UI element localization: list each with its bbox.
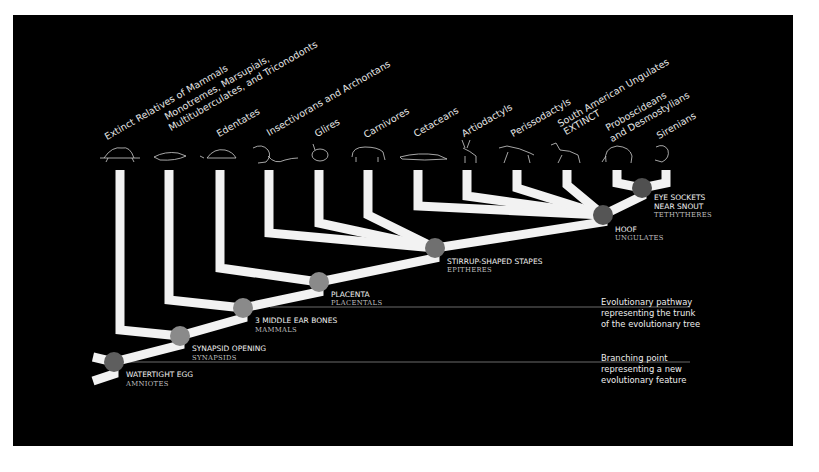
clade-label-tethytheres: TETHYTHERES <box>654 211 712 220</box>
feature-label-near-snout: NEAR SNOUT <box>654 202 703 211</box>
feature-label-3-middle-ear-bones: 3 MIDDLE EAR BONES <box>255 316 337 325</box>
monkey-icon <box>253 146 298 163</box>
animal-icons <box>100 140 668 163</box>
legend-branching-line2: representing a new <box>601 364 682 375</box>
node-amniotes <box>104 352 124 372</box>
bear-icon <box>352 147 385 162</box>
clade-label-amniotes: AMNIOTES <box>126 380 169 389</box>
node-epitheres <box>425 238 445 258</box>
armadillo-icon <box>200 150 236 158</box>
node-ungulates <box>593 205 613 225</box>
legend-pathway-line3: of the evolutionary tree <box>601 319 700 330</box>
manatee-icon <box>655 146 668 162</box>
dimetrodon-icon <box>100 148 140 162</box>
node-placentals <box>309 272 329 292</box>
clade-label-placentals: PLACENTALS <box>331 299 382 308</box>
feature-label-placenta: PLACENTA <box>331 290 370 299</box>
legend-pathway-line1: Evolutionary pathway <box>601 297 692 308</box>
feature-label-eye-sockets: EYE SOCKETS <box>654 193 705 202</box>
feature-label-hoof: HOOF <box>615 225 637 234</box>
feature-label-watertight-egg: WATERTIGHT EGG <box>126 370 193 379</box>
evolutionary-tree <box>0 0 819 472</box>
horse-icon <box>499 146 534 163</box>
rabbit-icon <box>312 144 328 161</box>
feature-label-stirrup-shaped-stapes: STIRRUP-SHAPED STAPES <box>447 257 542 266</box>
branch-monotremes <box>169 170 243 308</box>
clade-label-synapsids: SYNAPSIDS <box>192 354 237 363</box>
node-mammals <box>233 298 253 318</box>
legend-branching-line1: Branching point <box>601 353 668 364</box>
branches <box>93 170 666 381</box>
feature-label-synapsid-opening: SYNAPSID OPENING <box>192 344 266 353</box>
node-tethytheres <box>632 178 652 198</box>
clade-label-epitheres: EPITHERES <box>447 266 492 275</box>
legend-pathway-line2: representing the trunk <box>601 308 695 319</box>
whale-icon <box>400 154 447 160</box>
deer-icon <box>462 140 476 163</box>
elephant-icon <box>602 146 632 163</box>
platypus-icon <box>154 153 186 161</box>
legend-branching-line3: evolutionary feature <box>601 375 686 386</box>
clade-label-ungulates: UNGULATES <box>615 234 664 243</box>
clade-label-mammals: MAMMALS <box>255 326 297 335</box>
node-synapsids <box>170 326 190 346</box>
macrauchenia-icon <box>551 143 580 163</box>
